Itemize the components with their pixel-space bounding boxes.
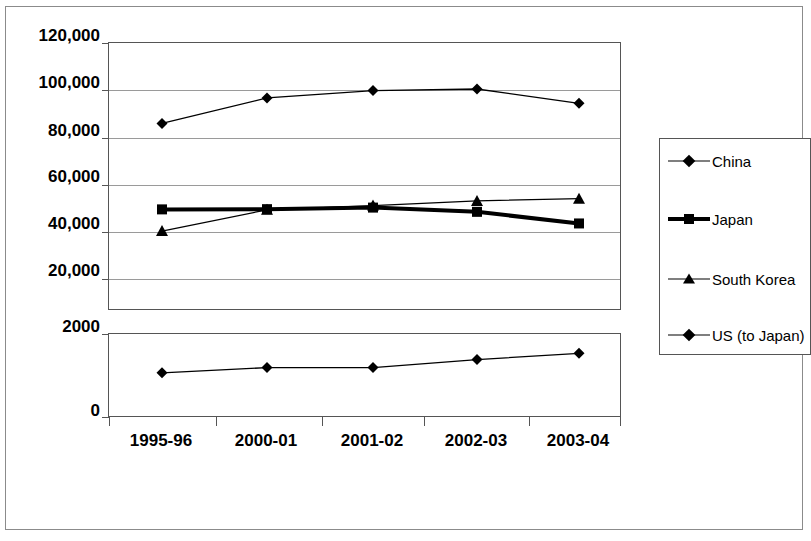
x-label-1995-96: 1995-96	[130, 431, 192, 451]
legend-label-japan: Japan	[712, 211, 753, 228]
y-tickmark-20000	[102, 279, 109, 280]
y-tick-label-120000: 120,000	[39, 26, 100, 46]
x-label-2002-03: 2002-03	[445, 431, 507, 451]
y-tickmark-60000	[102, 185, 109, 186]
y-tickmark-0	[102, 417, 109, 418]
lower-plot-area	[108, 333, 621, 417]
y-tick-label-0: 0	[91, 401, 100, 421]
x-tickmark-5	[620, 417, 621, 426]
y-tick-label-2000: 2000	[62, 317, 100, 337]
chart-legend: China Japan South Korea US (to Japan)	[659, 138, 811, 355]
x-label-2000-01: 2000-01	[235, 431, 297, 451]
legend-label-south-korea: South Korea	[712, 271, 795, 288]
x-tickmark-2	[322, 417, 323, 426]
y-tickmark-2000	[102, 334, 109, 335]
legend-marker-triangle-icon	[668, 271, 710, 287]
x-tickmark-0	[109, 417, 110, 426]
y-tick-label-40000: 40,000	[48, 214, 100, 234]
x-tickmark-4	[529, 417, 530, 426]
y-tickmark-100000	[102, 90, 109, 91]
y-tick-label-20000: 20,000	[48, 261, 100, 281]
legend-item-china[interactable]: China	[668, 151, 751, 171]
legend-item-us-to-japan[interactable]: US (to Japan)	[668, 325, 805, 345]
legend-label-us-to-japan: US (to Japan)	[712, 327, 805, 344]
x-label-2001-02: 2001-02	[341, 431, 403, 451]
upper-series-layer	[109, 43, 622, 311]
y-tickmark-80000	[102, 138, 109, 139]
x-tickmark-3	[424, 417, 425, 426]
y-tickmark-40000	[102, 232, 109, 233]
legend-marker-diamond-icon	[668, 153, 710, 169]
legend-marker-square-icon	[668, 211, 710, 227]
legend-item-south-korea[interactable]: South Korea	[668, 269, 795, 289]
y-tick-label-100000: 100,000	[39, 73, 100, 93]
legend-marker-diamond-us-icon	[668, 327, 710, 343]
x-tickmark-1	[216, 417, 217, 426]
lower-series-layer	[109, 334, 622, 418]
upper-plot-area	[108, 42, 621, 310]
y-tick-label-80000: 80,000	[48, 121, 100, 141]
legend-label-china: China	[712, 153, 751, 170]
y-tick-label-60000: 60,000	[48, 167, 100, 187]
y-tickmark-120000	[102, 43, 109, 44]
legend-item-japan[interactable]: Japan	[668, 209, 753, 229]
x-axis-labels: 1995-96 2000-01 2001-02 2002-03 2003-04	[108, 431, 621, 461]
chart-frame: 120,000 100,000 80,000 60,000 40,000 20,…	[5, 6, 803, 530]
x-label-2003-04: 2003-04	[547, 431, 609, 451]
